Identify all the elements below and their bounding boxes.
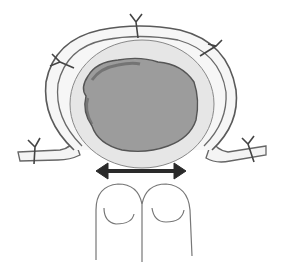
medical-illustration	[0, 0, 284, 271]
illustration-svg	[0, 0, 284, 271]
fingers	[96, 184, 192, 262]
